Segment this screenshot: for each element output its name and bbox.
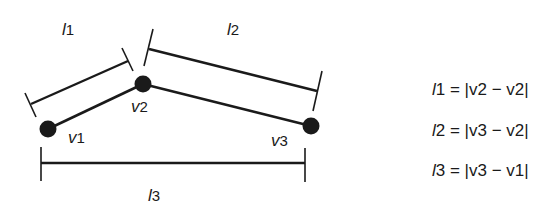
label-l2: l2	[227, 20, 239, 40]
label-v2-var: v	[131, 97, 140, 116]
equation-l1-sub: 1	[436, 80, 445, 99]
label-v2: v2	[131, 97, 148, 117]
label-v1: v1	[68, 128, 85, 148]
polyline-diagram	[0, 0, 549, 213]
label-l3: l3	[148, 186, 160, 206]
equation-l3-sub: 3	[436, 161, 445, 180]
label-v3: v3	[271, 131, 288, 151]
label-v3-var: v	[271, 131, 280, 150]
label-v1-var: v	[68, 128, 77, 147]
equation-l1-rhs: = |v2 − v2|	[445, 80, 529, 99]
equation-l3-rhs: = |v3 − v1|	[445, 161, 529, 180]
equation-l2-sub: 2	[436, 121, 445, 140]
vertex-v2	[135, 76, 152, 93]
label-v1-sub: 1	[77, 129, 85, 146]
edge-v2-v3	[143, 84, 311, 126]
equation-l1: l1 = |v2 − v2|	[432, 80, 529, 100]
equation-l2: l2 = |v3 − v2|	[432, 121, 529, 141]
label-v3-sub: 3	[280, 132, 288, 149]
dimension-l3	[41, 147, 305, 182]
vertex-v1	[40, 121, 57, 138]
vertex-v3	[303, 118, 320, 135]
dimension-l2	[144, 29, 322, 111]
dimension-l1	[25, 48, 133, 117]
label-l1: l1	[62, 20, 74, 40]
label-v2-sub: 2	[140, 98, 148, 115]
equation-l3: l3 = |v3 − v1|	[432, 161, 529, 181]
label-l3-sub: 3	[152, 187, 160, 204]
label-l1-sub: 1	[66, 21, 74, 38]
equation-l2-rhs: = |v3 − v2|	[445, 121, 529, 140]
label-l2-sub: 2	[231, 21, 239, 38]
